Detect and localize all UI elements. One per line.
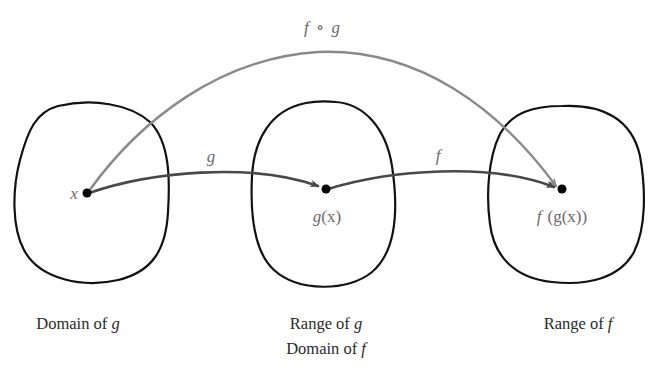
- point-g-of-x: [322, 185, 331, 194]
- point-f-of-g-of-x: [558, 185, 567, 194]
- composite-label: f ∘ g: [304, 18, 340, 37]
- caption-domain-of-g: Domain of g: [36, 314, 119, 333]
- set-range-f-outline: [488, 106, 644, 283]
- arrow-g: [89, 172, 318, 193]
- point-g-of-x-label: g(x): [313, 207, 341, 226]
- arrow-f: [328, 171, 554, 189]
- caption-domain-of-f: Domain of f: [286, 339, 368, 358]
- arrow-f-label: f: [436, 146, 443, 165]
- point-f-of-g-of-x-label: f(g(x)): [537, 207, 587, 226]
- caption-range-of-f: Range of f: [544, 314, 615, 333]
- function-composition-diagram: f ∘ g g f x g(x) f(g(x)) Domain of g Ran…: [0, 0, 656, 381]
- point-x-label: x: [69, 184, 78, 203]
- arrow-g-label: g: [207, 147, 216, 166]
- arrow-composite-f-of-g: [89, 52, 556, 191]
- set-range-g-outline: [252, 101, 396, 286]
- caption-range-of-g: Range of g: [290, 314, 362, 333]
- point-x: [83, 189, 92, 198]
